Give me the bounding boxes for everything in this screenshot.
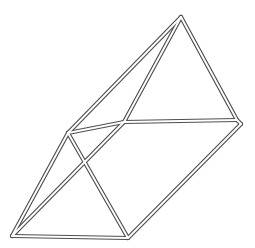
prism-wireframe-svg bbox=[0, 0, 255, 248]
figure-canvas bbox=[0, 0, 255, 248]
